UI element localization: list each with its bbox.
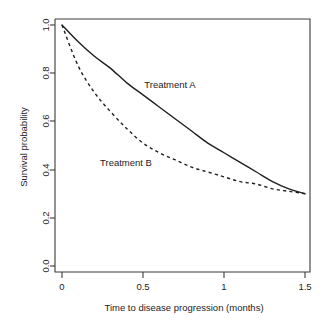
y-axis: 1.0 0.8 0.6 0.4 0.2 0.0 Survival probabi… — [18, 18, 56, 272]
y-axis-title: Survival probability — [18, 107, 29, 187]
x-axis: 0 0.5 1 1.5 Time to disease progression … — [59, 272, 311, 313]
x-axis-title: Time to disease progression (months) — [104, 302, 263, 313]
x-tick-label-1.5: 1.5 — [298, 281, 311, 292]
chart-canvas: 1.0 0.8 0.6 0.4 0.2 0.0 Survival probabi… — [0, 0, 331, 328]
plot-frame — [55, 19, 310, 272]
treatment-b-curve — [62, 25, 305, 194]
data-series-group — [62, 25, 305, 194]
x-tick-label-1: 1 — [221, 281, 226, 292]
treatment-b-label: Treatment B — [100, 157, 152, 168]
survival-plot-figure: 1.0 0.8 0.6 0.4 0.2 0.0 Survival probabi… — [0, 0, 331, 328]
x-tick-label-0: 0 — [59, 281, 64, 292]
y-tick-label-0.8: 0.8 — [40, 66, 51, 79]
y-tick-label-0.2: 0.2 — [40, 211, 51, 224]
y-tick-label-0.6: 0.6 — [40, 114, 51, 127]
y-tick-label-1.0: 1.0 — [40, 18, 51, 31]
y-tick-label-0.0: 0.0 — [40, 259, 51, 272]
treatment-a-label: Treatment A — [144, 79, 196, 90]
x-tick-label-0.5: 0.5 — [136, 281, 149, 292]
treatment-a-curve — [62, 25, 305, 194]
plot-box-border — [55, 19, 310, 272]
y-tick-label-0.4: 0.4 — [40, 163, 51, 176]
